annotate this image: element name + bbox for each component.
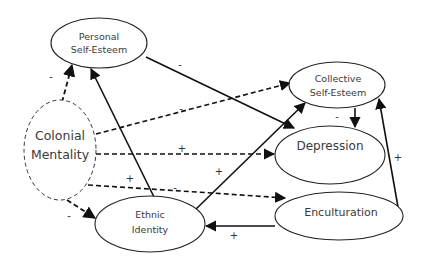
node-label-line1: Ethnic [135,209,165,220]
edge-colonial-to-enculturation [88,185,285,198]
node-label-line2: Self-Esteem [71,44,127,55]
sign-enculturation-collective: + [394,152,402,163]
sign-collective-depression: - [335,111,339,122]
node-ethnic-identity: Ethnic Identity [95,196,205,252]
sign-ethnic-collective: + [215,166,223,177]
path-diagram: Personal Self-Esteem Collective Self-Est… [0,0,423,265]
edge-personal-self-esteem-to-depression [146,57,294,128]
node-personal-self-esteem: Personal Self-Esteem [51,18,147,68]
node-label-line2: Self-Esteem [310,87,366,98]
edge-colonial-to-ethnic-identity [67,200,95,218]
sign-ethnic-personal: + [126,173,134,184]
node-label-line1: Colonial [35,128,85,143]
node-enculturation: Enculturation [275,192,403,240]
sign-colonial-enculturation: - [173,182,177,193]
node-label: Enculturation [304,206,378,219]
node-label-line2: Identity [132,224,169,235]
edge-colonial-to-collective-self-esteem [96,83,290,134]
node-collective-self-esteem: Collective Self-Esteem [289,62,385,108]
node-colonial-mentality: Colonial Mentality [24,100,96,200]
node-label: Depression [296,139,363,153]
edge-colonial-to-personal-self-esteem [62,65,72,102]
sign-personal-depression: - [178,59,182,70]
node-label-line1: Collective [315,73,362,84]
sign-colonial-personal: - [49,71,53,82]
node-label-line1: Personal [79,31,119,42]
sign-colonial-collective: - [179,103,183,114]
sign-colonial-ethnic: - [67,210,71,221]
node-depression: Depression [275,126,385,184]
sign-colonial-depression: + [178,143,186,154]
sign-enculturation-ethnic: + [230,230,238,241]
node-label-line2: Mentality [31,147,90,162]
